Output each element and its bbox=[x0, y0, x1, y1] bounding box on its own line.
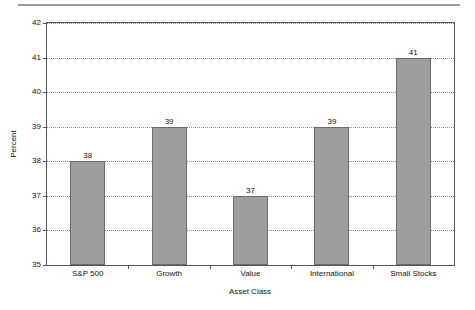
y-axis-tick-label: 40 bbox=[32, 88, 41, 96]
x-axis-tick-mark bbox=[291, 265, 292, 269]
bar-value-label: 38 bbox=[83, 152, 92, 160]
x-axis-tick-label: S&P 500 bbox=[72, 270, 103, 278]
y-axis-tick-mark bbox=[43, 92, 47, 93]
y-gridline bbox=[47, 23, 454, 24]
y-axis-tick-label: 38 bbox=[32, 157, 41, 165]
y-axis-tick-label: 42 bbox=[32, 19, 41, 27]
bar: 39 bbox=[314, 127, 349, 265]
y-axis-tick-mark bbox=[43, 230, 47, 231]
bar-value-label: 37 bbox=[246, 187, 255, 195]
y-axis-tick-mark bbox=[43, 58, 47, 59]
y-gridline bbox=[47, 127, 454, 128]
x-axis-tick-mark bbox=[128, 265, 129, 269]
y-axis-tick-label: 37 bbox=[32, 192, 41, 200]
x-axis-tick-label: Value bbox=[241, 270, 261, 278]
bar-chart-figure: 353637383940414238S&P 50039Growth37Value… bbox=[0, 0, 475, 310]
plot-area: 353637383940414238S&P 50039Growth37Value… bbox=[46, 22, 455, 266]
y-axis-tick-label: 39 bbox=[32, 123, 41, 131]
bar: 41 bbox=[396, 58, 431, 265]
y-axis-tick-mark bbox=[43, 23, 47, 24]
bar-value-label: 41 bbox=[409, 49, 418, 57]
y-axis-tick-mark bbox=[43, 196, 47, 197]
x-axis-tick-label: Small Stocks bbox=[390, 270, 436, 278]
y-axis-tick-mark bbox=[43, 127, 47, 128]
y-axis-tick-mark bbox=[43, 265, 47, 266]
bar: 39 bbox=[152, 127, 187, 265]
y-axis-tick-mark bbox=[43, 161, 47, 162]
y-axis-tick-label: 35 bbox=[32, 261, 41, 269]
bar-value-label: 39 bbox=[327, 118, 336, 126]
x-axis-tick-mark bbox=[210, 265, 211, 269]
x-axis-tick-mark bbox=[373, 265, 374, 269]
bar: 38 bbox=[70, 161, 105, 265]
bar-value-label: 39 bbox=[165, 118, 174, 126]
x-axis-tick-label: Growth bbox=[156, 270, 182, 278]
x-axis-tick-label: International bbox=[310, 270, 354, 278]
y-axis-tick-label: 36 bbox=[32, 226, 41, 234]
y-gridline bbox=[47, 161, 454, 162]
y-gridline bbox=[47, 92, 454, 93]
bar: 37 bbox=[233, 196, 268, 265]
x-axis-title: Asset Class bbox=[229, 288, 271, 296]
y-axis-title: Percent bbox=[10, 130, 18, 158]
y-axis-tick-label: 41 bbox=[32, 54, 41, 62]
top-divider-rule bbox=[18, 4, 460, 6]
y-gridline bbox=[47, 58, 454, 59]
